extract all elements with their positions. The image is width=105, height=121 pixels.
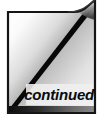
page-gradient-fill xyxy=(6,0,96,113)
page-curl-icon xyxy=(0,0,105,121)
continued-badge: continued xyxy=(0,0,105,121)
